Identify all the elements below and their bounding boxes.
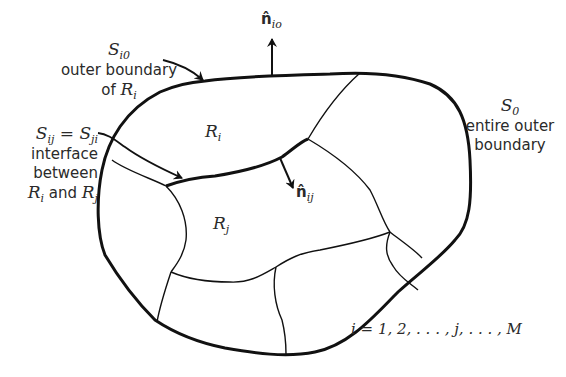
normal-vector-symbol: n̂ <box>261 10 272 28</box>
label-s0: S0 entire outer boundary <box>455 96 565 155</box>
outer-boundary-s0 <box>98 73 471 355</box>
normal-arrow-nij <box>280 158 293 188</box>
region-label-rj: Rj <box>213 214 229 235</box>
interface-sij <box>166 139 308 186</box>
label-sij: Sij = Sji interface between Ri and Rj <box>4 124 98 204</box>
label-nio: n̂io <box>261 10 282 30</box>
label-si0: Si0 outer boundary of Ri <box>54 40 184 101</box>
label-nij: n̂ij <box>296 183 314 203</box>
region-label-ri: Ri <box>205 122 221 143</box>
index-range-label: i = 1, 2, . . . , j, . . . , M <box>351 320 522 339</box>
interior-subdivision-lines <box>112 73 422 354</box>
